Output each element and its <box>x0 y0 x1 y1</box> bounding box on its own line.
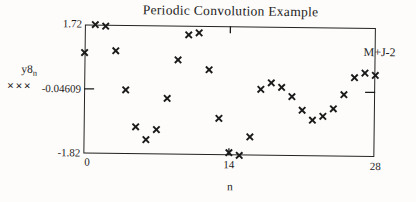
x-tick-label-mid: 14 <box>213 158 244 171</box>
y-axis-expression-base: y8 <box>21 63 33 75</box>
x-axis-title: n <box>210 180 250 192</box>
y-axis-expression: y8n <box>21 63 37 78</box>
y-tick-label-max: 1.72 <box>1 16 82 30</box>
plot-frame <box>83 24 376 157</box>
plot-title: Periodic Convolution Example <box>85 1 376 21</box>
trace-symbol-legend: ××× <box>7 79 32 94</box>
x-tick-label-min: 0 <box>84 155 90 168</box>
mathcad-plot: Periodic Convolution Example 1.72 -0.046… <box>0 0 416 202</box>
y-tick-label-min: -1.82 <box>0 145 80 159</box>
x-tick-label-max: 28 <box>359 160 391 173</box>
scanned-figure-page: Periodic Convolution Example 1.72 -0.046… <box>0 0 416 202</box>
y-axis-expression-subscript: n <box>33 68 37 78</box>
scatter-markers-canvas <box>83 24 376 157</box>
marker-annotation-label: M+J-2 <box>345 45 415 61</box>
